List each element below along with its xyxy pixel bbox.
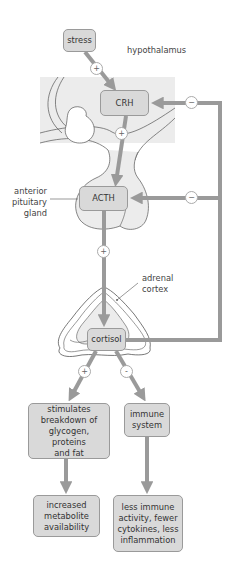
diagram-canvas <box>0 0 235 570</box>
hypothalamus-label: hypothalamus <box>127 45 186 56</box>
adrenal-cortex-label: adrenal cortex <box>142 273 173 295</box>
minus-sign-icon: − <box>185 96 198 109</box>
minus-sign-icon: − <box>185 191 198 204</box>
plus-sign-icon: + <box>78 365 91 378</box>
acth-node: ACTH <box>79 186 128 211</box>
minus-sign-icon: - <box>120 365 133 378</box>
metabolite-availability-node: increased metabolite availability <box>33 495 100 537</box>
immune-system-node: immune system <box>124 403 170 437</box>
stress-node: stress <box>63 29 96 52</box>
crh-node: CRH <box>100 90 149 116</box>
adrenal-leader-line <box>117 283 138 300</box>
metabolic-effect-node: stimulates breakdown of glycogen, protei… <box>28 403 110 459</box>
anterior-pituitary-label: anterior pituitary gland <box>4 186 47 219</box>
reduced-immune-activity-node: less immune activity, fewer cytokines, l… <box>113 495 183 552</box>
cortisol-node: cortisol <box>87 328 126 351</box>
plus-sign-icon: + <box>97 245 110 258</box>
plus-sign-icon: + <box>90 62 103 75</box>
plus-sign-icon: + <box>115 127 128 140</box>
